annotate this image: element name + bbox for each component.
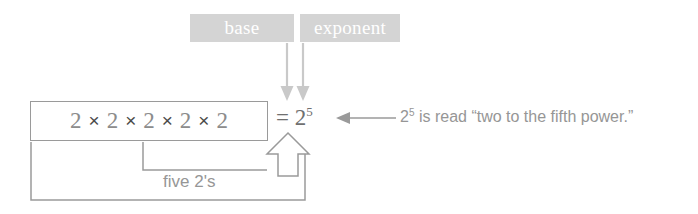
factor-3: 2 xyxy=(140,108,158,134)
times-symbol-2: × xyxy=(121,110,140,132)
diagram-canvas: base exponent 2 × 2 xyxy=(0,0,698,214)
left-arrow-icon-reading xyxy=(336,112,396,124)
reading-sentence: is read “two to the fifth power.” xyxy=(414,108,633,125)
times-symbol-1: × xyxy=(85,110,104,132)
reading-base: 2 xyxy=(400,108,409,125)
down-arrow-icon-exponent xyxy=(297,43,310,101)
result-exponent: 5 xyxy=(306,104,313,119)
expanded-product-box: 2 × 2 × 2 × 2 × 2 xyxy=(30,101,268,141)
factor-1: 2 xyxy=(67,108,85,134)
hollow-up-arrow-icon xyxy=(267,133,309,176)
down-arrow-icon-base xyxy=(281,43,294,101)
equals-symbol: = xyxy=(276,105,289,130)
times-symbol-4: × xyxy=(194,110,213,132)
factor-5: 2 xyxy=(213,108,231,134)
power-notation-result: = 25 xyxy=(276,104,313,131)
reading-explanation: 25 is read “two to the fifth power.” xyxy=(400,107,633,126)
factor-4: 2 xyxy=(177,108,195,134)
result-base: 2 xyxy=(295,105,307,130)
factor-2: 2 xyxy=(104,108,122,134)
times-symbol-3: × xyxy=(158,110,177,132)
factor-count-label: five 2's xyxy=(163,172,215,192)
